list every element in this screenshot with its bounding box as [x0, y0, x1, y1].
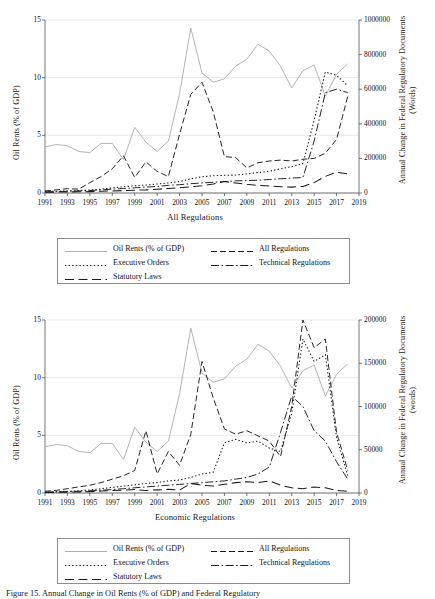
series-line-all-regulations	[45, 320, 348, 491]
x-tick-label: 1995	[79, 198, 101, 207]
series-line-technical-regulations	[45, 89, 348, 192]
x-tick-label: 2017	[326, 498, 348, 507]
series-line-oil-rents-of-gdp	[45, 28, 348, 159]
x-tick-label: 2013	[281, 198, 303, 207]
legend-label-all-regulations: All Regulations	[259, 244, 309, 253]
figure-container: Oil Rents (% of GDP) Annual Change in Fe…	[0, 0, 435, 599]
legend-swatch-dashdot	[210, 557, 254, 568]
legend-label-technical-regulations: Technical Regulations	[259, 558, 330, 567]
y-tick-label-right: 100000	[364, 402, 386, 411]
y-tick-label-right: 150000	[364, 358, 386, 367]
x-tick-label: 2003	[169, 198, 191, 207]
legend-label-all-regulations: All Regulations	[259, 544, 309, 553]
x-tick-label: 2007	[213, 498, 235, 507]
legend-label-executive-orders: Executive Orders	[113, 558, 169, 567]
y-tick-label-left: 5	[19, 130, 41, 139]
legend-entry-technical-regulations-top: Technical Regulations	[210, 256, 330, 269]
y-tick-label-right: 50000	[364, 445, 382, 454]
y-tick-label-right: 1000000	[364, 15, 390, 24]
legend-swatch-dashed	[210, 543, 254, 554]
x-tick-label: 2013	[281, 498, 303, 507]
y-tick-label-right: 200000	[364, 315, 386, 324]
y-tick-label-right: 0	[364, 188, 368, 197]
x-tick-label: 2003	[169, 498, 191, 507]
x-tick-label: 1991	[34, 198, 56, 207]
series-line-all-regulations	[45, 82, 348, 191]
x-tick-label: 2009	[236, 498, 258, 507]
legend-swatch-longdash	[64, 271, 108, 282]
y-tick-label-right: 200000	[364, 153, 386, 162]
chart-panel-economic-regulations: Oil Rents (% of GDP) Annual Change in Fe…	[0, 300, 435, 530]
y-axis-title-right-bottom: Annual Change in Federal Regulatory Docu…	[398, 310, 418, 490]
y-tick-label-left: 0	[19, 488, 41, 497]
y-axis-title-right-top: Annual Change in Federal Regulatory Docu…	[398, 10, 418, 190]
y-tick-label-left: 5	[19, 430, 41, 439]
x-tick-label: 2017	[326, 198, 348, 207]
legend-label-statutory-laws: Statutory Laws	[113, 572, 162, 581]
legend-entry-executive-orders-bottom: Executive Orders	[64, 556, 169, 569]
legend-entry-oil-rents-top: Oil Rents (% of GDP)	[64, 242, 184, 255]
y-tick-label-left: 10	[19, 73, 41, 82]
legend-swatch-solid	[64, 243, 108, 254]
y-axis-title-left-bottom: Oil Rents (% of GDP)	[12, 385, 21, 460]
legend-entry-all-regulations-top: All Regulations	[210, 242, 309, 255]
legend-swatch-dotted	[64, 557, 108, 568]
x-tick-label: 2015	[303, 198, 325, 207]
chart-panel-all-regulations: Oil Rents (% of GDP) Annual Change in Fe…	[0, 0, 435, 230]
y-tick-label-right: 400000	[364, 119, 386, 128]
x-tick-label: 1997	[101, 498, 123, 507]
legend-label-technical-regulations: Technical Regulations	[259, 258, 330, 267]
legend-entry-executive-orders-top: Executive Orders	[64, 256, 169, 269]
x-tick-label: 1993	[56, 198, 78, 207]
legend-swatch-solid	[64, 543, 108, 554]
series-line-executive-orders	[45, 72, 348, 192]
legend-bottom: Oil Rents (% of GDP) All Regulations Exe…	[57, 538, 350, 584]
x-tick-label: 2011	[258, 498, 280, 507]
y-tick-label-left: 15	[19, 15, 41, 24]
x-tick-label: 2019	[348, 198, 370, 207]
y-tick-label-left: 15	[19, 315, 41, 324]
x-tick-label: 2019	[348, 498, 370, 507]
x-tick-label: 2005	[191, 198, 213, 207]
legend-swatch-dotted	[64, 257, 108, 268]
x-axis-title-top: All Regulations	[30, 212, 360, 222]
x-tick-label: 2011	[258, 198, 280, 207]
series-line-oil-rents-of-gdp	[45, 328, 348, 459]
legend-entry-statutory-laws-top: Statutory Laws	[64, 270, 162, 283]
x-tick-label: 1995	[79, 498, 101, 507]
series-line-executive-orders	[45, 339, 348, 492]
x-tick-label: 2015	[303, 498, 325, 507]
legend-swatch-dashed	[210, 243, 254, 254]
legend-label-oil-rents: Oil Rents (% of GDP)	[113, 544, 184, 553]
plot-area-all-regulations	[0, 0, 435, 230]
legend-label-executive-orders: Executive Orders	[113, 258, 169, 267]
y-tick-label-right: 600000	[364, 84, 386, 93]
x-tick-label: 1993	[56, 498, 78, 507]
legend-swatch-dashdot	[210, 257, 254, 268]
legend-entry-all-regulations-bottom: All Regulations	[210, 542, 309, 555]
y-tick-label-right: 0	[364, 488, 368, 497]
x-tick-label: 1999	[124, 498, 146, 507]
figure-caption: Figure 15. Annual Change in Oil Rents (%…	[6, 589, 429, 599]
series-line-technical-regulations	[45, 396, 348, 492]
x-tick-label: 2005	[191, 498, 213, 507]
x-tick-label: 2009	[236, 198, 258, 207]
y-tick-label-left: 0	[19, 188, 41, 197]
x-tick-label: 1997	[101, 198, 123, 207]
legend-entry-oil-rents-bottom: Oil Rents (% of GDP)	[64, 542, 184, 555]
x-tick-label: 2001	[146, 498, 168, 507]
x-tick-label: 1999	[124, 198, 146, 207]
y-tick-label-right: 800000	[364, 50, 386, 59]
x-tick-label: 1991	[34, 498, 56, 507]
legend-entry-technical-regulations-bottom: Technical Regulations	[210, 556, 330, 569]
legend-label-oil-rents: Oil Rents (% of GDP)	[113, 244, 184, 253]
y-axis-title-left-top: Oil Rents (% of GDP)	[12, 85, 21, 160]
legend-entry-statutory-laws-bottom: Statutory Laws	[64, 570, 162, 583]
legend-swatch-longdash	[64, 571, 108, 582]
legend-label-statutory-laws: Statutory Laws	[113, 272, 162, 281]
x-axis-title-bottom: Economic Regulations	[30, 512, 360, 522]
x-tick-label: 2007	[213, 198, 235, 207]
x-tick-label: 2001	[146, 198, 168, 207]
legend-top: Oil Rents (% of GDP) All Regulations Exe…	[57, 238, 350, 284]
y-tick-label-left: 10	[19, 373, 41, 382]
